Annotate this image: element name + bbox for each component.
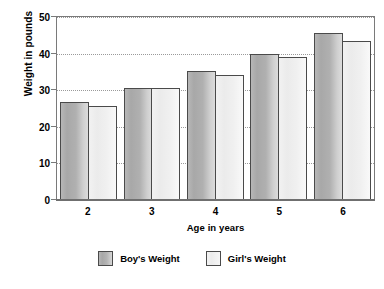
bar-group [124, 17, 181, 200]
bar-boy-age-3 [124, 88, 153, 200]
y-axis-tick-label: 30 [39, 85, 50, 96]
y-axis-tick-label: 10 [39, 158, 50, 169]
bar-group [250, 17, 307, 200]
bar-group [60, 17, 117, 200]
x-axis-tick-label: 5 [250, 203, 308, 221]
bar-girl-age-3 [151, 88, 180, 200]
bar-boy-age-2 [60, 102, 89, 200]
boy-swatch [98, 251, 113, 266]
bar-girl-age-5 [278, 57, 307, 200]
y-axis-tick-label: 0 [44, 195, 50, 206]
x-axis-tick-label: 4 [186, 203, 244, 221]
legend-item: Girl's Weight [206, 251, 286, 266]
chart-legend: Boy's WeightGirl's Weight [0, 251, 384, 266]
bar-girl-age-6 [342, 41, 371, 200]
bar-boy-age-5 [250, 54, 279, 200]
x-axis-tick-label: 6 [314, 203, 372, 221]
bar-group [187, 17, 244, 200]
x-axis-tick-labels: 23456 [56, 203, 375, 221]
x-axis-baseline [56, 199, 375, 201]
bar-girl-age-4 [215, 75, 244, 200]
bar-boy-age-6 [314, 33, 343, 200]
girl-swatch [206, 251, 221, 266]
y-axis-tick-label: 40 [39, 48, 50, 59]
y-axis-tick-label: 50 [39, 12, 50, 23]
y-axis-tick-mark [51, 126, 56, 127]
bar-boy-age-4 [187, 71, 216, 200]
legend-label: Boy's Weight [120, 253, 180, 264]
legend-label: Girl's Weight [228, 253, 286, 264]
y-axis-title: Weight in pounds [23, 0, 34, 134]
y-axis-tick-mark [51, 16, 56, 17]
x-axis-tick-label: 3 [123, 203, 181, 221]
x-axis-tick-label: 2 [59, 203, 117, 221]
legend-item: Boy's Weight [98, 251, 180, 266]
bar-girl-age-2 [88, 106, 117, 200]
bar-group [314, 17, 371, 200]
y-axis-tick-label: 20 [39, 121, 50, 132]
y-axis-tick-mark [51, 53, 56, 54]
bar-chart: Weight in pounds 01020304050 23456 Age i… [0, 0, 384, 289]
bar-groups [57, 17, 374, 200]
y-axis-tick-mark [51, 162, 56, 163]
y-axis-tick-mark [51, 89, 56, 90]
plot-area: 01020304050 [56, 16, 375, 200]
x-axis-title: Age in years [56, 222, 375, 233]
